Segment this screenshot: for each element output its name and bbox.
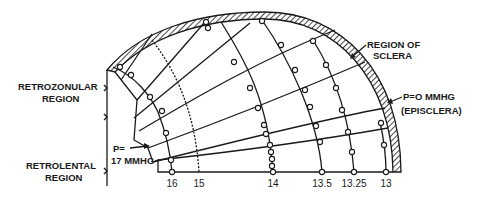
sclera-label-line2: SCLERA (373, 50, 412, 61)
eye-pressure-diagram: 16 15 14 13.5 13.25 13 RETROZONULAR REGI… (0, 0, 483, 198)
episclera-label-line1: P=O MMHG (403, 91, 455, 102)
isobar-label-15: 15 (193, 178, 205, 189)
inner-boundary (115, 72, 393, 172)
p17-label-line1: P= (113, 143, 125, 154)
retrozonular-label-line2: REGION (42, 93, 80, 104)
isobar-label-16: 16 (166, 178, 178, 189)
isobar-label-13-5: 13.5 (312, 178, 332, 189)
retrolental-label-line1: RETROLENTAL (26, 160, 96, 171)
retrozonular-label-line1: RETROZONULAR (18, 81, 98, 92)
p17-label-line2: 17 MMHG (111, 155, 154, 166)
isobar-label-13: 13 (380, 178, 392, 189)
isobar-label-13-25: 13.25 (341, 178, 366, 189)
sclera-label-line1: REGION OF (367, 39, 421, 50)
episclera-label-line2: (EPISCLERA) (401, 105, 462, 116)
isobar-labels: 16 15 14 13.5 13.25 13 (166, 178, 392, 189)
isobar-label-14: 14 (267, 178, 279, 189)
retrolental-label-line2: REGION (45, 172, 83, 183)
